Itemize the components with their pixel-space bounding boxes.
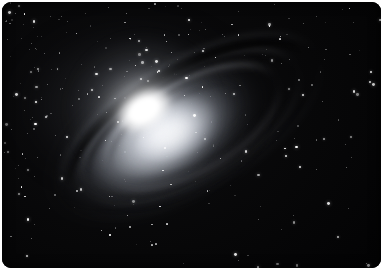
- image-viewport: Grayscale astronomical photograph of an …: [0, 0, 391, 275]
- photograph-plate: [2, 2, 381, 268]
